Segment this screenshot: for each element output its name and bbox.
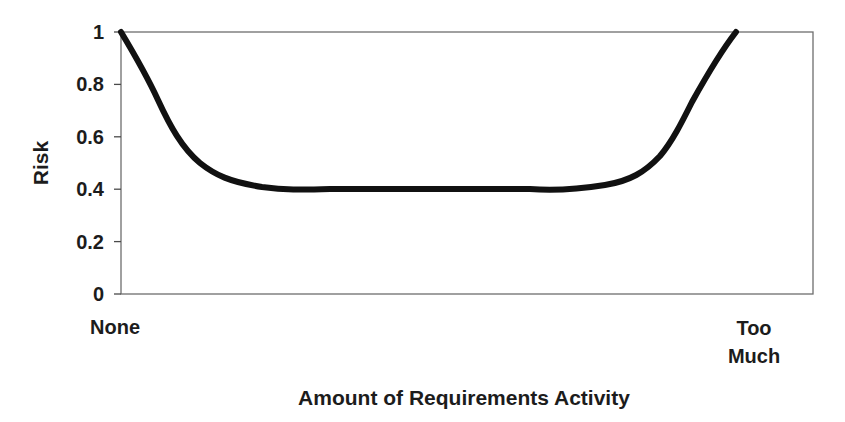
- x-label-too: Too: [736, 317, 771, 339]
- x-label-much: Much: [728, 345, 780, 367]
- y-axis-label: Risk: [29, 141, 52, 186]
- y-tick-0: 0: [93, 283, 104, 305]
- y-ticks: [114, 32, 121, 294]
- y-tick-0.4: 0.4: [76, 178, 105, 200]
- y-tick-0.6: 0.6: [76, 126, 104, 148]
- risk-chart: 0 0.2 0.4 0.6 0.8 1 Risk None Too Much A…: [0, 0, 845, 422]
- y-tick-1: 1: [93, 21, 104, 43]
- x-axis-label: Amount of Requirements Activity: [298, 386, 630, 409]
- y-tick-0.8: 0.8: [76, 73, 104, 95]
- y-tick-labels: 0 0.2 0.4 0.6 0.8 1: [76, 21, 105, 305]
- y-tick-0.2: 0.2: [76, 231, 104, 253]
- x-label-none: None: [90, 316, 140, 338]
